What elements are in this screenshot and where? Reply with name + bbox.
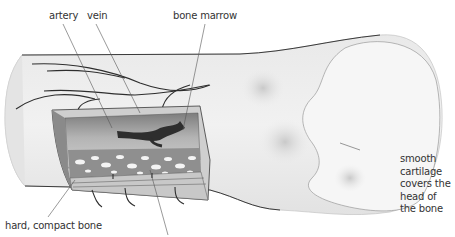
label-cartilage-line-1: smooth	[400, 153, 455, 166]
label-artery: artery	[49, 10, 78, 22]
label-cartilage-line-4: head of	[400, 191, 455, 204]
label-compact-bone: hard, compact bone	[5, 220, 102, 232]
label-cartilage-line-3: covers the	[400, 178, 455, 191]
label-cartilage-line-5: the bone	[400, 203, 455, 216]
label-cartilage: smooth cartilage covers the head of the …	[400, 153, 455, 216]
cutaway-section	[52, 106, 210, 207]
label-cartilage-line-2: cartilage	[400, 166, 455, 179]
label-vein: vein	[87, 10, 107, 22]
label-bone-marrow: bone marrow	[173, 10, 237, 22]
